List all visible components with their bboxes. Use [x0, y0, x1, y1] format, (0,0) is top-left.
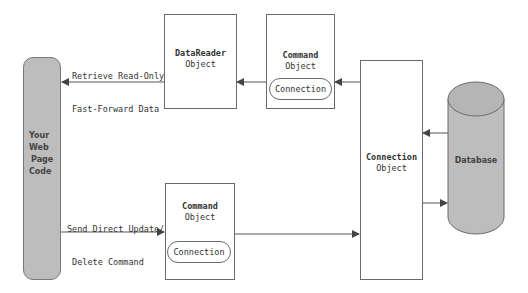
datareader-title: DataReader — [164, 48, 237, 59]
command-object-box-bottom — [165, 183, 235, 280]
command-top-subtitle: Object — [266, 61, 335, 72]
connection-title: Connection — [360, 152, 423, 163]
connection-subtitle: Object — [360, 163, 423, 174]
command-bottom-title: Command — [165, 201, 235, 212]
command-top-connection-pill: Connection — [269, 78, 332, 100]
web-page-code-line: Code — [29, 166, 59, 178]
web-page-code-line: Web — [29, 142, 59, 154]
send-label-line2: Delete Command — [67, 257, 164, 268]
retrieve-label-line1: Retrieve Read-Only — [72, 71, 164, 82]
command-object-label-top: Command Object — [266, 50, 335, 72]
datareader-subtitle: Object — [164, 59, 237, 70]
connection-object-label: Connection Object — [360, 152, 423, 174]
send-label: Send Direct Update/ Delete Command — [67, 202, 164, 279]
database-label: Database — [448, 156, 504, 165]
send-label-line1: Send Direct Update/ — [67, 224, 164, 235]
command-bottom-subtitle: Object — [165, 212, 235, 223]
web-page-code-line: Your — [29, 130, 59, 142]
retrieve-label: Retrieve Read-Only Fast-Forward Data — [72, 49, 164, 126]
datareader-object-label: DataReader Object — [164, 48, 237, 70]
retrieve-label-line2: Fast-Forward Data — [72, 104, 164, 115]
web-page-code-line: Page — [29, 154, 59, 166]
web-page-code-label: Your Web Page Code — [29, 130, 59, 178]
command-top-title: Command — [266, 50, 335, 61]
command-bottom-connection-pill: Connection — [167, 241, 231, 263]
command-object-label-bottom: Command Object — [165, 201, 235, 223]
